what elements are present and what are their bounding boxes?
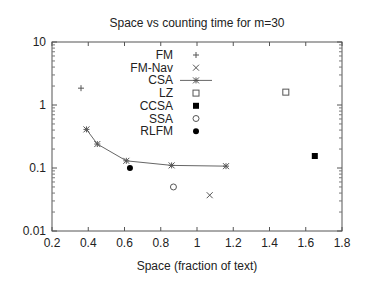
y-tick-label: 0.01 [23,224,47,238]
series-rlfm [127,165,133,171]
y-tick-label: 0.1 [29,161,46,175]
data-series [78,85,318,198]
y-axis: 0.010.1110 [23,35,342,238]
x-tick-label: 0.4 [80,236,97,250]
chart-title: Space vs counting time for m=30 [109,16,284,30]
scatter-chart: Space vs counting time for m=30 0.20.40.… [0,0,372,284]
y-tick-label: 10 [33,35,47,49]
y-tick-label: 1 [39,98,46,112]
series-lz [283,89,289,95]
x-tick-label: 1.8 [334,236,351,250]
x-axis-label: Space (fraction of text) [137,259,258,273]
plot-area [52,42,342,231]
legend: FMFM-NavCSALZCCSASSARLFM [130,48,212,138]
x-tick-label: 1.2 [225,236,242,250]
x-tick-label: 0.2 [44,236,61,250]
legend-item: CSA [148,73,212,87]
series-ccsa [312,153,318,159]
x-tick-label: 1.4 [261,236,278,250]
svg-text:RLFM: RLFM [140,124,173,138]
series-ssa [170,184,176,190]
series-fm-nav [207,192,213,198]
x-axis: 0.20.40.60.811.21.41.61.8 [44,42,351,250]
x-tick-label: 1.6 [297,236,314,250]
x-tick-label: 0.8 [152,236,169,250]
x-tick-label: 0.6 [116,236,133,250]
legend-item: RLFM [140,124,199,138]
x-tick-label: 1 [194,236,201,250]
series-fm [78,85,84,91]
